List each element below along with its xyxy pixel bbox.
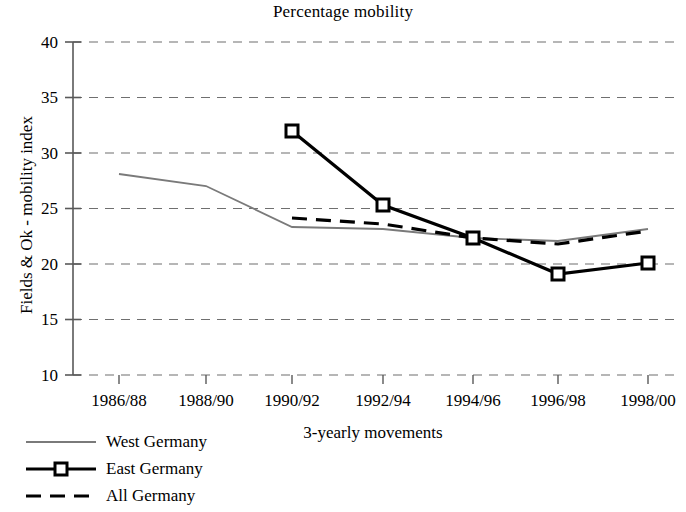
legend-label-west-germany: West Germany bbox=[106, 432, 207, 452]
legend-item-all-germany: All Germany bbox=[22, 482, 322, 509]
y-tick-label: 15 bbox=[18, 311, 58, 328]
legend-label-east-germany: East Germany bbox=[106, 459, 203, 479]
y-tick-label: 25 bbox=[18, 200, 58, 217]
x-axis-ticks bbox=[119, 375, 648, 384]
x-tick-label: 1998/00 bbox=[593, 392, 686, 409]
y-tick-label: 10 bbox=[18, 367, 58, 384]
gridlines bbox=[73, 42, 676, 375]
y-tick-label: 30 bbox=[18, 145, 58, 162]
legend-swatch-all-germany-icon bbox=[22, 487, 100, 505]
chart-legend: West Germany East Germany All Germany bbox=[22, 428, 322, 509]
series-markers-east-germany bbox=[286, 125, 654, 280]
y-tick-label: 35 bbox=[18, 89, 58, 106]
legend-item-west-germany: West Germany bbox=[22, 428, 322, 455]
legend-item-east-germany: East Germany bbox=[22, 455, 322, 482]
y-tick-label: 20 bbox=[18, 256, 58, 273]
legend-swatch-east-germany-icon bbox=[22, 460, 100, 478]
y-tick-label: 40 bbox=[18, 34, 58, 51]
legend-swatch-west-germany-icon bbox=[22, 433, 100, 451]
chart-container: Percentage mobility Fields & Ok - mobili… bbox=[0, 0, 686, 512]
legend-label-all-germany: All Germany bbox=[106, 486, 195, 506]
